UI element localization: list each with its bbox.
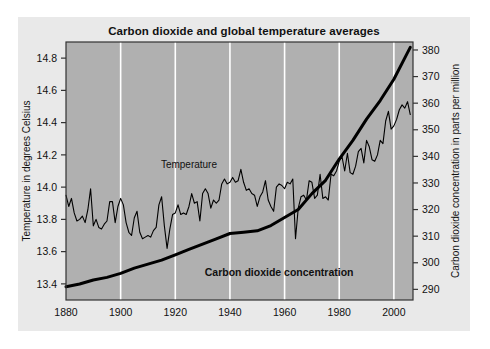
svg-text:13.6: 13.6 — [37, 245, 58, 257]
svg-text:1920: 1920 — [164, 306, 188, 318]
svg-text:370: 370 — [422, 70, 440, 82]
svg-text:14.6: 14.6 — [37, 84, 58, 96]
svg-text:13.4: 13.4 — [37, 278, 58, 290]
svg-text:320: 320 — [422, 203, 440, 215]
svg-text:380: 380 — [422, 44, 440, 56]
svg-text:1980: 1980 — [328, 306, 352, 318]
svg-text:13.8: 13.8 — [37, 213, 58, 225]
svg-text:1940: 1940 — [218, 306, 242, 318]
svg-text:14.0: 14.0 — [37, 181, 58, 193]
svg-text:Carbon dioxide concentration i: Carbon dioxide concentration in parts pe… — [450, 64, 461, 278]
svg-text:350: 350 — [422, 123, 440, 135]
chart-plot-area: 13.413.613.814.014.214.414.614.829030031… — [18, 17, 470, 331]
svg-text:360: 360 — [422, 97, 440, 109]
plot-background — [66, 42, 413, 300]
svg-text:Carbon dioxide concentration: Carbon dioxide concentration — [205, 266, 354, 278]
svg-text:1880: 1880 — [54, 306, 78, 318]
svg-text:330: 330 — [422, 177, 440, 189]
svg-text:14.4: 14.4 — [37, 116, 58, 128]
svg-text:1900: 1900 — [109, 306, 133, 318]
svg-text:310: 310 — [422, 230, 440, 242]
chart-svg: 13.413.613.814.014.214.414.614.829030031… — [18, 17, 470, 331]
svg-text:290: 290 — [422, 283, 440, 295]
svg-text:340: 340 — [422, 150, 440, 162]
svg-text:14.2: 14.2 — [37, 149, 58, 161]
svg-text:1960: 1960 — [273, 306, 297, 318]
svg-text:Temperature: Temperature — [161, 159, 218, 170]
svg-text:300: 300 — [422, 256, 440, 268]
chart-figure: Carbon dioxide and global temperature av… — [18, 17, 470, 331]
svg-text:Temperature in degrees Celsiu: Temperature in degrees Celsius — [21, 100, 32, 241]
svg-text:14.8: 14.8 — [37, 52, 58, 64]
svg-text:2000: 2000 — [382, 306, 406, 318]
